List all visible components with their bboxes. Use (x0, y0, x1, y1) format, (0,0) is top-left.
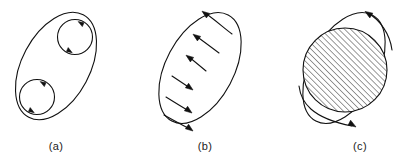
arrowhead-icon (186, 55, 194, 62)
panel-a: (a) (0, 0, 113, 152)
panel-a-boundary-ellipse (0, 0, 113, 133)
arrowhead-icon (193, 34, 201, 41)
panel-b-inflow-arrows (186, 11, 232, 71)
panel-c: (c) (286, 0, 402, 152)
arrowhead-icon (67, 48, 73, 53)
figure-container: (a) (b) (0, 0, 416, 161)
flow-arrow-line (196, 36, 219, 53)
panel-a-lower-vortex (20, 80, 55, 115)
panel-label-a: (a) (49, 140, 64, 152)
arrowhead-icon (40, 82, 46, 87)
arrowhead-icon (29, 108, 35, 113)
arrowhead-icon (78, 22, 84, 27)
flow-arrow-line (205, 13, 232, 34)
arrowhead-icon (365, 11, 373, 18)
panel-label-b: (b) (198, 140, 213, 152)
arrowhead-icon (185, 124, 193, 131)
panel-a-upper-vortex (58, 20, 93, 55)
vortex-circle (58, 20, 93, 55)
panel-c-hatched-region (303, 28, 387, 112)
vortex-circle (20, 80, 55, 115)
panel-b-boundary-ellipse (142, 0, 258, 137)
arrowhead-icon (185, 83, 193, 90)
panel-label-c: (c) (353, 140, 367, 152)
arrowhead-icon (184, 106, 192, 113)
flow-arrow-line (164, 115, 190, 129)
panel-b: (b) (142, 0, 258, 152)
figure-canvas: (a) (b) (0, 0, 416, 161)
